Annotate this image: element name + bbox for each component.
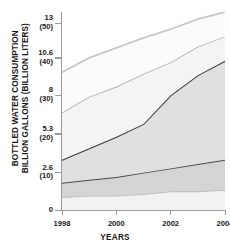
y-tick-liters: (40)	[8, 58, 53, 67]
x-tick-label: 2000	[96, 219, 136, 228]
y-tick-mark	[55, 133, 61, 134]
stacked-area-series	[62, 12, 225, 210]
y-tick-label: 0	[8, 206, 53, 215]
x-tick-label: 2002	[151, 219, 191, 228]
x-tick-mark	[116, 210, 117, 215]
y-tick-mark	[55, 95, 61, 96]
y-tick-liters: (20)	[8, 134, 53, 143]
y-tick-mark	[55, 23, 61, 24]
x-tick-label: 1998	[42, 219, 82, 228]
y-tick-label: 5.3(20)	[8, 125, 53, 142]
x-axis-line	[61, 210, 225, 211]
y-tick-liters: (50)	[8, 23, 53, 32]
y-tick-label: 10.6(40)	[8, 49, 53, 66]
x-axis-title: YEARS	[0, 233, 230, 242]
plot-area	[62, 12, 225, 210]
y-tick-mark	[55, 57, 61, 58]
x-tick-mark	[225, 210, 226, 215]
x-tick-mark	[62, 210, 63, 215]
y-tick-liters: (30)	[8, 95, 53, 104]
y-tick-label: 8(30)	[8, 86, 53, 103]
y-tick-label: 2.6(10)	[8, 164, 53, 181]
y-tick-label: 13(50)	[8, 14, 53, 31]
x-tick-label: 2004	[205, 219, 230, 228]
y-tick-mark	[55, 210, 61, 211]
bottled-water-consumption-chart: BOTTLED WATER CONSUMPTION BILLION GALLON…	[0, 0, 230, 249]
x-tick-mark	[170, 210, 171, 215]
y-tick-gallons: 0	[8, 206, 53, 215]
y-tick-mark	[55, 172, 61, 173]
y-tick-liters: (10)	[8, 172, 53, 181]
